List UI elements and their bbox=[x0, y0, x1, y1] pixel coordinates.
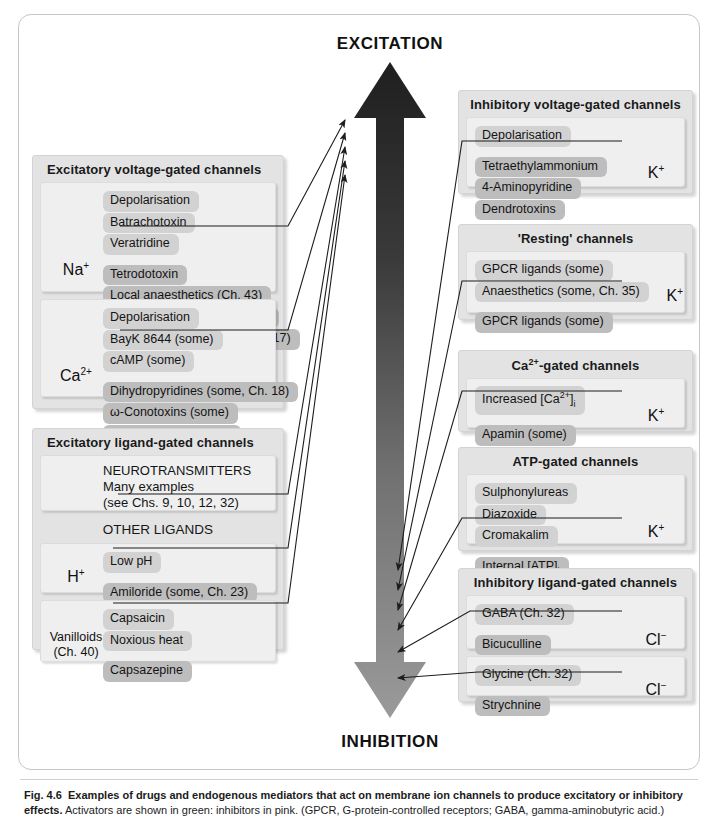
chip-activator: Increased [Ca2+]i bbox=[475, 386, 585, 415]
chip-activator: Batrachotoxin bbox=[103, 213, 195, 234]
vanilloid-line-2: (Ch. 40) bbox=[53, 645, 98, 659]
panel-excitatory-ligand-gated-channels: Excitatory ligand-gated channels NEUROTR… bbox=[32, 428, 284, 650]
ion-label-h: H+ bbox=[49, 567, 103, 587]
figure-4-6: EXCITATION INHIBITION Excitatory voltage… bbox=[0, 0, 717, 837]
caption-figure-number: Fig. 4.6 bbox=[24, 789, 62, 801]
panel-resting-channels: 'Resting' channels GPCR ligands (some) A… bbox=[458, 224, 693, 320]
ion-label-k: K+ bbox=[655, 286, 695, 306]
neurotransmitters-line: Many examples bbox=[103, 479, 267, 495]
panel-ca-gated-channels: Ca2+-gated channels Increased [Ca2+]i Ap… bbox=[458, 350, 693, 432]
group-vanilloid-channel: Vanilloids (Ch. 40) Capsaicin Noxious he… bbox=[40, 600, 276, 662]
chip-activator: GPCR ligands (some) bbox=[475, 260, 613, 281]
panel-title: ATP-gated channels bbox=[459, 448, 692, 474]
chip-inhibitor: ω-Conotoxins (some) bbox=[103, 403, 238, 424]
inhibition-label: INHIBITION bbox=[240, 732, 540, 752]
chip-activator: Glycine (Ch. 32) bbox=[475, 665, 581, 686]
ion-label-na: Na+ bbox=[49, 260, 103, 280]
group-ca-channel: Ca2+ Depolarisation BayK 8644 (some) cAM… bbox=[40, 299, 276, 397]
chip-activator: Depolarisation bbox=[475, 126, 571, 147]
panel-title: Inhibitory voltage-gated channels bbox=[459, 91, 692, 117]
chip-inhibitor: 4-Aminopyridine bbox=[475, 178, 581, 199]
vanilloid-line-1: Vanilloids bbox=[50, 630, 103, 644]
neurotransmitters-line: NEUROTRANSMITTERS bbox=[103, 463, 267, 479]
group-neurotransmitters: NEUROTRANSMITTERS Many examples (see Chs… bbox=[40, 455, 276, 511]
chip-activator: Low pH bbox=[103, 552, 161, 573]
activator-chip-block: Depolarisation BayK 8644 (some) cAMP (so… bbox=[103, 307, 298, 372]
chip-activator: Depolarisation bbox=[103, 308, 199, 329]
other-ligands-subheading: OTHER LIGANDS bbox=[33, 518, 283, 543]
chip-inhibitor: Tetraethylammonium bbox=[475, 157, 607, 178]
chip-inhibitor: Tetrodotoxin bbox=[103, 265, 187, 286]
ion-label-cl: Cl− bbox=[636, 680, 676, 700]
neurotransmitters-line: (see Chs. 9, 10, 12, 32) bbox=[103, 495, 267, 511]
excitation-label: EXCITATION bbox=[240, 34, 540, 54]
chip-activator: GABA (Ch. 32) bbox=[475, 604, 574, 625]
chip-inhibitor: Capsazepine bbox=[103, 661, 192, 682]
chip-inhibitor: Bicuculline bbox=[475, 635, 551, 656]
group-k-channel: Increased [Ca2+]i Apamin (some) K+ bbox=[466, 378, 685, 428]
group-h-channel: H+ Low pH Amiloride (some, Ch. 23) bbox=[40, 543, 276, 593]
group-k-channel: GPCR ligands (some) Anaesthetics (some, … bbox=[466, 251, 685, 313]
chip-activator: Capsaicin bbox=[103, 609, 174, 630]
chip-activator: cAMP (some) bbox=[103, 351, 194, 372]
chip-activator: Sulphonylureas bbox=[475, 483, 577, 504]
ion-label-k: K+ bbox=[636, 406, 676, 426]
chip-inhibitor: Apamin (some) bbox=[475, 425, 576, 446]
group-gaba-channel: GABA (Ch. 32) Bicuculline Picrotoxin Cl− bbox=[466, 595, 685, 649]
chip-activator: Cromakalim bbox=[475, 526, 558, 547]
group-k-channel: Depolarisation Tetraethylammonium 4-Amin… bbox=[466, 117, 685, 187]
group-k-channel: Sulphonylureas Diazoxide Cromakalim Inte… bbox=[466, 474, 685, 544]
chip-activator: BayK 8644 (some) bbox=[103, 330, 223, 351]
panel-title: Excitatory voltage-gated channels bbox=[33, 156, 283, 182]
activator-chip-block: Depolarisation Batrachotoxin Veratridine bbox=[103, 190, 300, 255]
panel-title: Inhibitory ligand-gated channels bbox=[459, 569, 692, 595]
chip-activator: Noxious heat bbox=[103, 631, 192, 652]
group-na-channel: Na+ Depolarisation Batrachotoxin Veratri… bbox=[40, 182, 276, 292]
chip-activator: Diazoxide bbox=[475, 505, 546, 526]
panel-title: 'Resting' channels bbox=[459, 225, 692, 251]
caption-divider bbox=[20, 779, 698, 780]
group-glycine-channel: Glycine (Ch. 32) Strychnine Cl− bbox=[466, 656, 685, 696]
figure-caption: Fig. 4.6 Examples of drugs and endogenou… bbox=[24, 788, 696, 817]
panel-inhibitory-voltage-gated-channels: Inhibitory voltage-gated channels Depola… bbox=[458, 90, 693, 194]
panel-title: Ca2+-gated channels bbox=[459, 351, 692, 378]
ion-label-k: K+ bbox=[636, 522, 676, 542]
panel-inhibitory-ligand-gated-channels: Inhibitory ligand-gated channels GABA (C… bbox=[458, 568, 693, 702]
ion-label-cl: Cl− bbox=[636, 630, 676, 650]
panel-excitatory-voltage-gated-channels: Excitatory voltage-gated channels Na+ De… bbox=[32, 155, 284, 409]
caption-rest-text: Activators are shown in green: inhibitor… bbox=[65, 804, 664, 816]
chip-inhibitor: Dihydropyridines (some, Ch. 18) bbox=[103, 382, 298, 403]
chip-activator: Veratridine bbox=[103, 234, 179, 255]
panel-atp-gated-channels: ATP-gated channels Sulphonylureas Diazox… bbox=[458, 447, 693, 551]
chip-activator: Depolarisation bbox=[103, 191, 199, 212]
chip-inhibitor: GPCR ligands (some) bbox=[475, 312, 613, 333]
excitation-inhibition-axis: EXCITATION INHIBITION bbox=[330, 60, 450, 720]
ion-label-vanilloids: Vanilloids (Ch. 40) bbox=[49, 630, 103, 659]
chip-inhibitor: Dendrotoxins bbox=[475, 200, 565, 221]
ion-label-ca: Ca2+ bbox=[49, 366, 103, 386]
vertical-double-arrow bbox=[330, 60, 450, 720]
panel-title: Excitatory ligand-gated channels bbox=[33, 429, 283, 455]
chip-activator: Anaesthetics (some, Ch. 35) bbox=[475, 282, 649, 303]
ion-label-k: K+ bbox=[636, 163, 676, 183]
chip-inhibitor: Strychnine bbox=[475, 696, 550, 717]
